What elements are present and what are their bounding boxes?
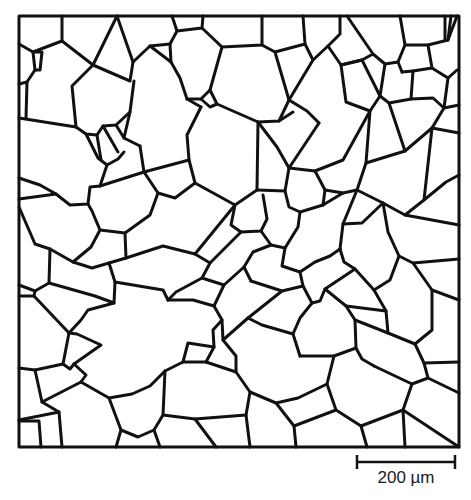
- grain-boundaries: [19, 16, 459, 447]
- scale-bar: [357, 455, 455, 469]
- grain-micrograph: [0, 0, 471, 500]
- scale-bar-label: 200 µm: [356, 468, 456, 488]
